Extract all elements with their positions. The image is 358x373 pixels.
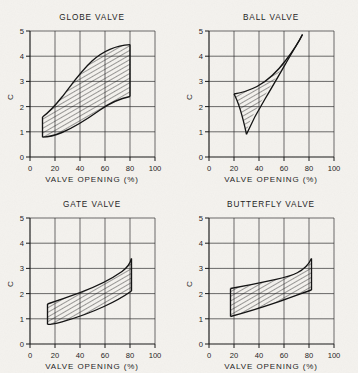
ytick-4: 4 — [199, 239, 203, 248]
ytick-4: 4 — [20, 52, 24, 61]
chart-title-gate: GATE VALVE — [63, 200, 121, 209]
chart-title-ball: BALL VALVE — [243, 13, 299, 22]
xtick-60: 60 — [101, 351, 109, 360]
ytick-labels-ball: 5 4 3 2 1 0 — [199, 27, 203, 162]
axes-gate — [26, 218, 155, 348]
xtick-40: 40 — [76, 164, 84, 173]
chart-panel-gate-valve: GATE VALVE — [0, 187, 179, 373]
chart-title-butterfly: BUTTERFLY VALVE — [227, 200, 315, 209]
ytick-labels-globe: 5 4 3 2 1 0 — [20, 27, 24, 162]
yaxis-label-ball: C — [185, 94, 194, 100]
gridlines-ball — [209, 31, 334, 157]
xtick-labels-ball: 0 20 40 60 80 100 — [207, 164, 340, 173]
xtick-0: 0 — [207, 164, 211, 173]
xtick-labels-butterfly: 0 20 40 60 80 100 — [207, 351, 340, 360]
ytick-labels-gate: 5 4 3 2 1 0 — [20, 214, 24, 349]
data-band-ball — [234, 35, 303, 135]
ytick-2: 2 — [20, 103, 24, 112]
xtick-0: 0 — [207, 351, 211, 360]
xtick-60: 60 — [101, 164, 109, 173]
ytick-3: 3 — [20, 264, 24, 273]
ytick-5: 5 — [20, 27, 24, 36]
ytick-4: 4 — [20, 239, 24, 248]
xtick-60: 60 — [280, 164, 288, 173]
gridlines-gate — [30, 218, 155, 344]
xaxis-label-ball: VALVE OPENING (%) — [224, 175, 318, 184]
ytick-1: 1 — [20, 315, 24, 324]
chart-panel-ball-valve: BALL VALVE — [179, 0, 358, 186]
gate-valve-svg: GATE VALVE — [0, 187, 179, 373]
data-band-globe — [43, 45, 131, 138]
chart-title-globe: GLOBE VALVE — [59, 13, 125, 22]
ytick-2: 2 — [199, 290, 203, 299]
chart-panel-butterfly-valve: BUTTERFLY VALVE — [179, 187, 358, 373]
xtick-80: 80 — [126, 164, 134, 173]
xtick-labels-globe: 0 20 40 60 80 100 — [28, 164, 161, 173]
ytick-labels-butterfly: 5 4 3 2 1 0 — [199, 214, 203, 349]
yaxis-label-globe: C — [6, 94, 15, 100]
xtick-20: 20 — [51, 164, 59, 173]
xtick-40: 40 — [76, 351, 84, 360]
xtick-20: 20 — [230, 164, 238, 173]
xtick-20: 20 — [51, 351, 59, 360]
xtick-60: 60 — [280, 351, 288, 360]
axes-ball — [205, 31, 334, 161]
ytick-4: 4 — [199, 52, 203, 61]
ytick-3: 3 — [20, 77, 24, 86]
xtick-80: 80 — [126, 351, 134, 360]
ytick-0: 0 — [20, 340, 24, 349]
xtick-labels-gate: 0 20 40 60 80 100 — [28, 351, 161, 360]
ytick-3: 3 — [199, 77, 203, 86]
xtick-100: 100 — [328, 164, 341, 173]
ball-valve-svg: BALL VALVE — [179, 0, 358, 186]
xtick-0: 0 — [28, 351, 32, 360]
yaxis-label-gate: C — [6, 281, 15, 287]
ytick-5: 5 — [199, 27, 203, 36]
globe-valve-svg: GLOBE VALVE — [0, 0, 179, 186]
ytick-0: 0 — [199, 153, 203, 162]
ytick-2: 2 — [20, 290, 24, 299]
butterfly-valve-svg: BUTTERFLY VALVE — [179, 187, 358, 373]
xaxis-label-gate: VALVE OPENING (%) — [45, 362, 139, 371]
chart-grid: GLOBE VALVE — [0, 0, 358, 373]
ytick-1: 1 — [199, 128, 203, 137]
xtick-20: 20 — [230, 351, 238, 360]
ytick-5: 5 — [20, 214, 24, 223]
xtick-100: 100 — [328, 351, 341, 360]
ytick-1: 1 — [20, 128, 24, 137]
xtick-0: 0 — [28, 164, 32, 173]
xtick-100: 100 — [149, 351, 162, 360]
xtick-40: 40 — [255, 351, 263, 360]
xaxis-label-globe: VALVE OPENING (%) — [45, 175, 139, 184]
ytick-1: 1 — [199, 315, 203, 324]
xtick-80: 80 — [305, 351, 313, 360]
ytick-0: 0 — [199, 340, 203, 349]
figure-sheet: GLOBE VALVE — [0, 0, 358, 373]
xtick-40: 40 — [255, 164, 263, 173]
chart-panel-globe-valve: GLOBE VALVE — [0, 0, 179, 186]
xtick-80: 80 — [305, 164, 313, 173]
xtick-100: 100 — [149, 164, 162, 173]
data-band-butterfly — [231, 259, 312, 317]
ytick-5: 5 — [199, 214, 203, 223]
ytick-0: 0 — [20, 153, 24, 162]
ytick-3: 3 — [199, 264, 203, 273]
yaxis-label-butterfly: C — [185, 281, 194, 287]
ytick-2: 2 — [199, 103, 203, 112]
xaxis-label-butterfly: VALVE OPENING (%) — [224, 362, 318, 371]
